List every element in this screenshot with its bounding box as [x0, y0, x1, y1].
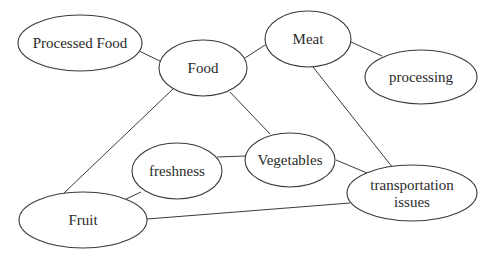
node-freshness-label: freshness — [149, 163, 205, 179]
node-vegetables-label: Vegetables — [258, 152, 323, 168]
node-transportation-issues: transportation issues — [347, 165, 477, 221]
edge-meat-processing — [351, 42, 382, 56]
node-meat: Meat — [265, 11, 351, 67]
node-transportation-issues-label-line1: transportation — [370, 177, 454, 193]
node-food-label: Food — [188, 60, 219, 76]
node-processed-food: Processed Food — [18, 15, 142, 71]
edge-processed_food-food — [139, 51, 162, 62]
edge-fruit-transportation — [147, 203, 350, 219]
node-processing: processing — [365, 50, 477, 104]
node-transportation-issues-ellipse — [347, 165, 477, 221]
node-meat-label: Meat — [293, 31, 325, 47]
node-freshness: freshness — [132, 143, 222, 199]
node-processing-label: processing — [389, 69, 454, 85]
node-vegetables: Vegetables — [245, 133, 335, 187]
node-transportation-issues-label-line2: issues — [394, 194, 430, 210]
edge-freshness-fruit — [126, 192, 141, 199]
edge-freshness-vegetables — [217, 156, 245, 157]
node-food: Food — [159, 40, 247, 96]
node-processed-food-label: Processed Food — [33, 35, 128, 51]
edge-food-vegetables — [230, 92, 270, 134]
edge-food-meat — [245, 45, 265, 58]
nodes-layer: Processed Food Food Meat processing fres… — [18, 11, 477, 248]
node-fruit-label: Fruit — [68, 212, 98, 228]
node-fruit: Fruit — [19, 192, 147, 248]
concept-map-diagram: Processed Food Food Meat processing fres… — [0, 0, 493, 259]
edge-vegetables-transportation — [336, 160, 367, 173]
